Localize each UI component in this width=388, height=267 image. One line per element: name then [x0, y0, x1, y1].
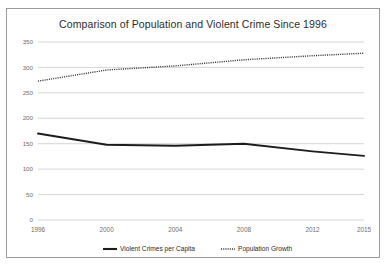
series-line: [38, 134, 364, 156]
line-chart-plot: 050100150200250300350 199620002004200820…: [7, 9, 379, 257]
x-axis-tick-label: 2000: [100, 226, 115, 233]
y-axis-tick-labels: 050100150200250300350: [23, 38, 34, 223]
y-axis-tick-label: 200: [23, 114, 34, 121]
y-axis-tick-label: 250: [23, 89, 34, 96]
chart-card: Comparison of Population and Violent Cri…: [6, 8, 380, 258]
x-axis-tick-labels: 199620002004200820122015: [31, 226, 372, 233]
x-axis-tick-label: 2015: [357, 226, 372, 233]
chart-legend: Violent Crimes per CapitaPopulation Grow…: [103, 245, 293, 253]
x-axis-tick-label: 2008: [237, 226, 252, 233]
gridlines-group: [38, 42, 364, 220]
x-axis-tick-label: 2012: [305, 226, 320, 233]
y-axis-tick-label: 300: [23, 64, 34, 71]
legend-label: Population Growth: [238, 245, 293, 253]
y-axis-tick-label: 350: [23, 38, 34, 45]
y-axis-tick-label: 150: [23, 140, 34, 147]
y-axis-tick-label: 100: [23, 165, 34, 172]
data-series-group: [38, 53, 364, 156]
legend-label: Violent Crimes per Capita: [120, 245, 195, 253]
x-axis-tick-label: 2004: [168, 226, 183, 233]
y-axis-tick-label: 0: [30, 216, 34, 223]
x-axis-tick-label: 1996: [31, 226, 46, 233]
y-axis-tick-label: 50: [26, 191, 33, 198]
